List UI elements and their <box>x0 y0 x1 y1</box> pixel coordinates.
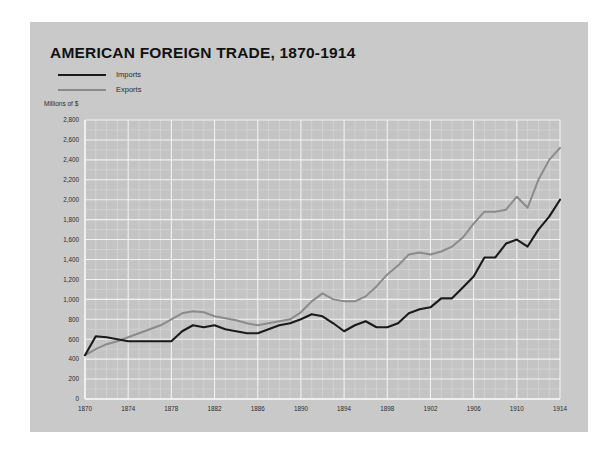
y-axis-tick-label: 1,200 <box>63 276 79 283</box>
chart-card: AMERICAN FOREIGN TRADE, 1870-1914 Import… <box>30 22 588 432</box>
y-axis-tick-label: 2,400 <box>63 156 79 163</box>
x-axis-tick-label: 1898 <box>380 405 395 412</box>
y-axis-tick-label: 2,200 <box>63 176 79 183</box>
y-axis-tick-label: 1,400 <box>63 256 79 263</box>
x-axis-tick-label: 1878 <box>164 405 179 412</box>
line-chart-svg: 02004006008001,0001,2001,4001,6001,8002,… <box>30 22 588 432</box>
x-axis-tick-label: 1882 <box>208 405 223 412</box>
y-axis-tick-label: 600 <box>68 336 79 343</box>
x-axis-tick-label: 1910 <box>510 405 525 412</box>
y-axis-tick-label: 1,800 <box>63 216 79 223</box>
y-axis-tick-label: 1,000 <box>63 296 79 303</box>
x-axis-tick-label: 1902 <box>423 405 438 412</box>
y-axis-tick-label: 400 <box>68 355 79 362</box>
x-axis-tick-label: 1886 <box>251 405 266 412</box>
y-axis-tick-label: 2,000 <box>63 196 79 203</box>
x-axis-tick-label: 1870 <box>78 405 93 412</box>
x-axis-tick-label: 1890 <box>294 405 309 412</box>
y-axis-tick-label: 2,600 <box>63 136 79 143</box>
x-axis-tick-label: 1894 <box>337 405 352 412</box>
x-axis-tick-label: 1914 <box>553 405 568 412</box>
y-axis-tick-label: 2,800 <box>63 116 79 123</box>
x-axis-tick-label: 1906 <box>467 405 482 412</box>
x-axis-tick-label: 1874 <box>121 405 136 412</box>
plot-area: 02004006008001,0001,2001,4001,6001,8002,… <box>30 22 588 432</box>
y-axis-tick-label: 800 <box>68 316 79 323</box>
y-axis-tick-label: 200 <box>68 375 79 382</box>
y-axis-tick-label: 0 <box>75 395 79 402</box>
y-axis-tick-label: 1,600 <box>63 236 79 243</box>
